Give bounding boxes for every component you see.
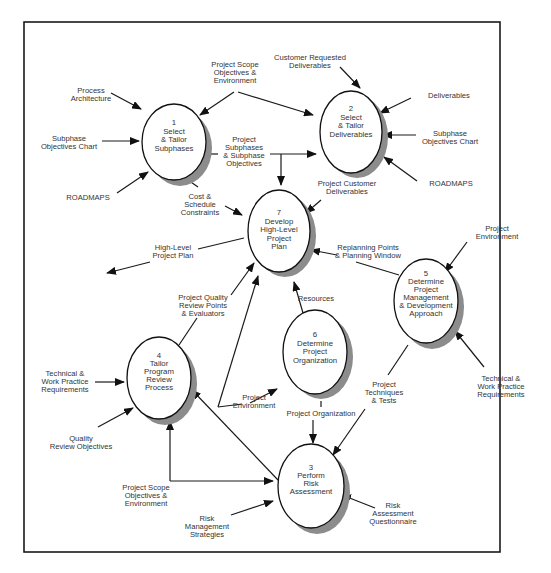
flow-label-cost-schedule: Cost &ScheduleConstraints — [181, 192, 220, 217]
flow-label-deliverables: Deliverables — [428, 91, 470, 100]
flow-label-risk-management: RiskManagementStrategies — [185, 514, 230, 539]
flow-label-project-environment-6: ProjectEnvironment — [233, 393, 277, 410]
flow-label-replanning: Replanning Points& Planning Window — [335, 243, 401, 260]
flow-label-project-subphases: ProjectSubphases& SubphaseObjectives — [223, 135, 264, 168]
process-7[interactable]: 7DevelopHigh-LevelProjectPlan — [248, 190, 316, 277]
flow-label-roadmaps-2: ROADMAPS — [429, 179, 472, 188]
flow-label-roadmaps-1: ROADMAPS — [66, 193, 109, 202]
process-3[interactable]: 3PerformRiskAssessment — [278, 444, 350, 534]
flow-label-subphase-objectives-chart-2: SubphaseObjectives Chart — [422, 129, 479, 146]
process-5[interactable]: 5DetermineProjectManagement& Development… — [394, 259, 464, 349]
process-4[interactable]: 4TailorProgramReviewProcess — [127, 337, 197, 425]
flow-label-project-scope-top: Project ScopeObjectives &Environment — [211, 60, 258, 85]
process-6[interactable]: 6DetermineProjectOrganization — [283, 310, 353, 399]
flow-label-technical-work-practice-4: Technical &Work PracticeRequirements — [41, 369, 88, 394]
flow-label-project-environment-5: ProjectEnvironment — [476, 224, 520, 241]
flow-label-project-customer-deliverables: Project CustomerDeliverables — [318, 179, 377, 196]
process-1[interactable]: 1Select& TailorSubphases — [142, 104, 212, 186]
flow-label-project-organization: Project Organization — [287, 409, 356, 418]
flow-label-high-level-project-plan: High-LevelProject Plan — [153, 243, 194, 260]
flow-label-project-quality: Project QualityReview Points& Evaluators — [178, 293, 228, 318]
flow-label-process-architecture: ProcessArchitecture — [71, 86, 112, 103]
flow-label-risk-assessment-questionnaire: RiskAssessmentQuestionnaire — [369, 501, 416, 526]
flow-label-customer-requested: Customer RequestedDeliverables — [274, 53, 346, 70]
flow-label-project-scope-bottom: Project ScopeObjectives &Environment — [122, 483, 169, 508]
flow-label-project-techniques: ProjectTechniques& Tests — [365, 380, 404, 405]
process-2[interactable]: 2Select& TailorDeliverables — [320, 91, 388, 178]
flow-label-subphase-objectives-chart-1: SubphaseObjectives Chart — [41, 134, 98, 151]
data-flow-diagram: 1Select& TailorSubphases 2Select& Tailor… — [0, 0, 551, 573]
flow-label-technical-work-practice-5: Technical &Work PracticeRequirements — [477, 374, 524, 399]
flow-label-quality-review-objectives: QualityReview Objectives — [50, 434, 113, 451]
flow-label-resources: Resources — [298, 294, 334, 303]
